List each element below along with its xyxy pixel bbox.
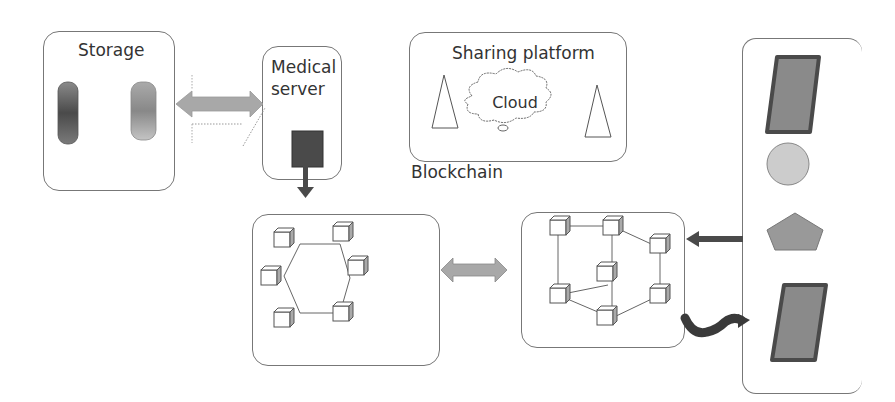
- storage-server-double-arrow-icon: [176, 75, 265, 146]
- node-cube-icon: [550, 284, 570, 303]
- right-peer-triangle-icon: [585, 85, 611, 137]
- left-peer-triangle-icon: [432, 75, 458, 128]
- storage-drum-dark-icon: [58, 82, 78, 144]
- node-cube-icon: [650, 234, 670, 253]
- node-cube-icon: [597, 262, 617, 281]
- server-block-icon: [292, 131, 323, 167]
- node-cube-icon: [348, 256, 368, 275]
- node-cube-icon: [333, 302, 353, 321]
- node-cube-icon: [274, 228, 294, 247]
- storage-drum-light-icon: [131, 82, 156, 140]
- node-cube-icon: [650, 284, 670, 303]
- node-cube-icon: [597, 306, 617, 325]
- network-sync-double-arrow-icon: [441, 258, 507, 282]
- hexagon-network-nodes: [261, 222, 368, 327]
- curved-upload-arrow-icon: [685, 314, 750, 333]
- tablet-device-top-icon: [767, 57, 819, 132]
- node-cube-icon: [603, 216, 623, 235]
- diagram-canvas: Cloud: [0, 0, 895, 402]
- pentagon-device-icon: [767, 213, 823, 250]
- tablet-device-bottom-icon: [772, 285, 826, 360]
- node-cube-icon: [274, 308, 294, 327]
- devices-to-network-arrow-icon: [686, 231, 743, 247]
- cloud-label: Cloud: [492, 93, 538, 112]
- node-cube-icon: [550, 216, 570, 235]
- circle-device-icon: [767, 143, 809, 185]
- mesh-network-nodes: [550, 216, 670, 325]
- node-cube-icon: [261, 266, 281, 285]
- server-to-network-arrow-icon: [297, 165, 314, 198]
- node-cube-icon: [333, 222, 353, 241]
